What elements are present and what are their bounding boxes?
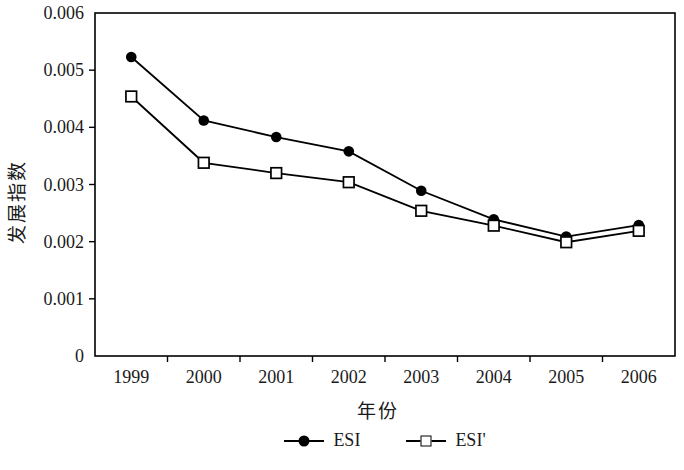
data-point-filled-circle [343, 146, 354, 157]
x-tick-label: 2000 [186, 367, 222, 387]
data-point-filled-circle [271, 132, 282, 143]
x-axis-title: 年份 [95, 396, 660, 423]
y-tick-label: 0.002 [44, 232, 85, 252]
y-tick-label: 0 [75, 346, 84, 366]
data-point-open-square [633, 226, 644, 237]
y-tick-label: 0.006 [44, 3, 85, 23]
y-tick-label: 0.004 [44, 117, 85, 137]
x-tick-label: 2001 [258, 367, 294, 387]
y-tick-label: 0.005 [44, 60, 85, 80]
data-point-filled-circle [126, 52, 137, 63]
line-chart-figure: 发展指数 00.0010.0020.0030.0040.0050.0061999… [0, 0, 684, 470]
data-point-open-square [126, 91, 137, 102]
data-point-filled-circle [416, 185, 427, 196]
x-tick-label: 2003 [403, 367, 439, 387]
x-tick-label: 1999 [113, 367, 149, 387]
legend-item-esi-prime: ESI' [406, 430, 485, 451]
legend-label-esi: ESI [333, 430, 360, 451]
data-point-filled-circle [198, 115, 209, 126]
x-tick-label: 2006 [621, 367, 657, 387]
plot-area: 00.0010.0020.0030.0040.0050.006199920002… [0, 0, 684, 430]
data-point-open-square [343, 177, 354, 188]
y-tick-label: 0.003 [44, 175, 85, 195]
filled-circle-marker-icon [284, 440, 324, 442]
legend: ESI ESI' [95, 430, 675, 451]
data-point-open-square [488, 220, 499, 231]
legend-item-esi: ESI [284, 430, 360, 451]
data-point-open-square [198, 157, 209, 168]
data-point-open-square [416, 205, 427, 216]
x-tick-label: 2002 [331, 367, 367, 387]
data-point-open-square [561, 237, 572, 248]
y-tick-label: 0.001 [44, 289, 85, 309]
data-point-open-square [271, 168, 282, 179]
plot-border [95, 13, 675, 356]
open-square-marker-icon [406, 440, 446, 442]
legend-label-esi-prime: ESI' [455, 430, 485, 451]
x-tick-label: 2005 [548, 367, 584, 387]
x-tick-label: 2004 [476, 367, 512, 387]
